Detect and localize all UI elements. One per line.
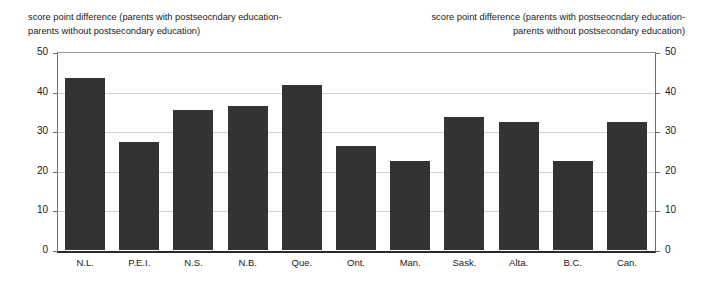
- tick-mark-right-50: [655, 53, 660, 54]
- bar-slot: [221, 52, 275, 250]
- y-axis-right-labels: 50403020100: [665, 52, 695, 250]
- x-axis-labels: N.L.P.E.I.N.S.N.B.Que.Ont.Man.Sask.Alta.…: [58, 256, 654, 272]
- bar-Que.[interactable]: [282, 85, 322, 250]
- y-tick-label-right-30: 30: [665, 126, 695, 136]
- y-tick-label-left-40: 40: [18, 87, 48, 97]
- x-tick-label-B.C.: B.C.: [546, 256, 600, 272]
- y-tick-label-left-20: 20: [18, 166, 48, 176]
- bar-slot: [600, 52, 654, 250]
- bar-slot: [58, 52, 112, 250]
- bar-slot: [275, 52, 329, 250]
- bar-slot: [166, 52, 220, 250]
- bar-slot: [437, 52, 491, 250]
- bar-B.C.[interactable]: [553, 161, 593, 250]
- y-tick-label-left-50: 50: [18, 47, 48, 57]
- bar-slot: [329, 52, 383, 250]
- y-tick-label-right-20: 20: [665, 166, 695, 176]
- bar-slot: [492, 52, 546, 250]
- bar-Man.[interactable]: [390, 161, 430, 250]
- tick-mark-right-30: [655, 132, 660, 133]
- bar-N.B.[interactable]: [228, 106, 268, 250]
- y-tick-label-right-0: 0: [665, 245, 695, 255]
- bar-N.L.[interactable]: [65, 78, 105, 250]
- bar-Can.[interactable]: [607, 122, 647, 250]
- bar-chart: 50403020100 50403020100 N.L.P.E.I.N.S.N.…: [0, 0, 711, 289]
- x-tick-label-Man.: Man.: [383, 256, 437, 272]
- bar-Sask.[interactable]: [444, 117, 484, 250]
- x-tick-label-Can.: Can.: [600, 256, 654, 272]
- x-tick-label-Sask.: Sask.: [437, 256, 491, 272]
- bar-slot: [383, 52, 437, 250]
- x-tick-label-N.B.: N.B.: [221, 256, 275, 272]
- tick-mark-right-20: [655, 172, 660, 173]
- y-tick-label-left-30: 30: [18, 126, 48, 136]
- x-tick-label-N.L.: N.L.: [58, 256, 112, 272]
- tick-mark-left-0: [53, 251, 58, 252]
- y-tick-label-left-10: 10: [18, 205, 48, 215]
- x-tick-label-Alta.: Alta.: [492, 256, 546, 272]
- x-tick-label-N.S.: N.S.: [166, 256, 220, 272]
- bar-N.S.[interactable]: [173, 110, 213, 250]
- y-tick-label-left-0: 0: [18, 245, 48, 255]
- y-tick-label-right-40: 40: [665, 87, 695, 97]
- tick-mark-right-40: [655, 93, 660, 94]
- tick-mark-right-10: [655, 211, 660, 212]
- bar-Ont.[interactable]: [336, 146, 376, 250]
- bars-container: [58, 52, 654, 250]
- y-tick-label-right-10: 10: [665, 205, 695, 215]
- y-axis-left-labels: 50403020100: [18, 52, 48, 250]
- tick-mark-right-0: [655, 251, 660, 252]
- x-tick-label-Ont.: Ont.: [329, 256, 383, 272]
- bar-Alta.[interactable]: [499, 122, 539, 250]
- y-tick-label-right-50: 50: [665, 47, 695, 57]
- bar-slot: [546, 52, 600, 250]
- x-tick-label-Que.: Que.: [275, 256, 329, 272]
- bar-slot: [112, 52, 166, 250]
- bar-P.E.I.[interactable]: [119, 142, 159, 250]
- x-tick-label-P.E.I.: P.E.I.: [112, 256, 166, 272]
